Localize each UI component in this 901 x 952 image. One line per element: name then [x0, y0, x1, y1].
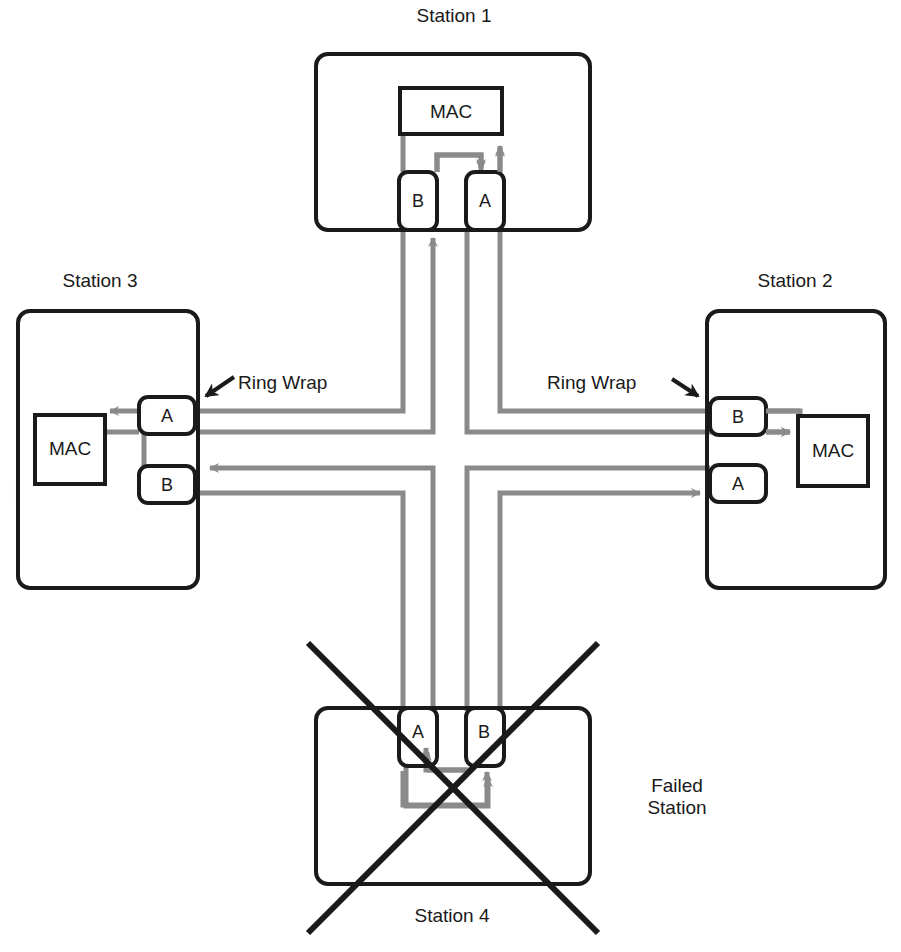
station-2: Station 2 MAC B A Ring Wrap	[547, 270, 885, 588]
failed-x-icon	[308, 643, 598, 933]
wire-s3-to-s1b	[198, 238, 433, 432]
station-2-internal-wires	[766, 411, 800, 432]
station-2-mac-label: MAC	[812, 440, 854, 461]
station-4-label: Station 4	[415, 905, 490, 926]
station-3-port-b-label: B	[161, 475, 173, 495]
station-3-label: Station 3	[63, 270, 138, 291]
station-3-port-a-label: A	[161, 406, 173, 426]
ring-wrap-diagram: Station 1 MAC B A Station 3 MAC A B Ring…	[0, 0, 901, 952]
wire-s4a-to-s3b	[210, 468, 433, 711]
station-1-port-a-label: A	[479, 191, 491, 211]
ring-wires	[198, 229, 760, 711]
station-3-ring-wrap-label: Ring Wrap	[238, 372, 327, 393]
station-2-port-wires	[766, 411, 800, 432]
station-2-port-b-label: B	[732, 407, 744, 427]
wire-s3b-to-s4a	[198, 493, 403, 711]
station-4-box	[316, 708, 590, 884]
station-2-port-a-label: A	[732, 474, 744, 494]
station-1-label: Station 1	[417, 5, 492, 26]
station-1: Station 1 MAC B A	[316, 5, 590, 230]
station-1-port-wires	[437, 146, 500, 172]
station-4-port-a-label: A	[412, 722, 424, 742]
failed-station-label-line1: Failed	[651, 775, 703, 796]
station-2-label: Station 2	[758, 270, 833, 291]
station-1-box	[316, 54, 590, 230]
wire-s4b-to-s2a	[500, 493, 700, 711]
station-4-port-b-label: B	[478, 722, 490, 742]
ring-wrap-arrow-icon	[672, 379, 698, 396]
station-4: A B Station 4 Failed Station	[308, 643, 707, 933]
station-3-mac-label: MAC	[49, 438, 91, 459]
station-3: Station 3 MAC A B Ring Wrap	[18, 270, 327, 588]
ring-wrap-arrow-icon	[206, 377, 234, 396]
station-2-ring-wrap-label: Ring Wrap	[547, 372, 636, 393]
station-1-port-b-label: B	[412, 191, 424, 211]
failed-station-label-line2: Station	[647, 797, 706, 818]
wire-s2a-to-s4b	[467, 468, 710, 711]
station-1-mac-label: MAC	[430, 101, 472, 122]
